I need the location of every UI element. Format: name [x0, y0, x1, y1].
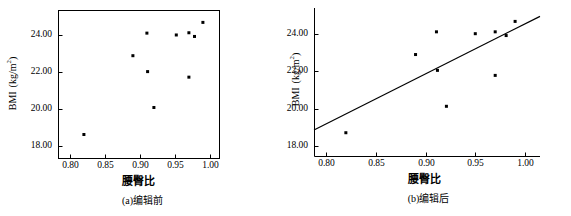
data-point: [414, 53, 417, 56]
chart-panel-b: BMI(kg/m2) 腰臀比 (b)编辑后 18.0020.0022.0024.…: [286, 0, 571, 216]
data-point: [505, 34, 508, 37]
data-point: [494, 30, 497, 33]
y-axis-unit-a-close: ): [7, 57, 18, 60]
y-axis-tick-label: 22.00: [264, 65, 308, 75]
y-axis-tick-label: 22.00: [8, 66, 52, 76]
panel-b-caption: (b)编辑后: [286, 190, 571, 205]
x-axis-tick-label: 0.90: [121, 160, 161, 170]
data-point: [201, 21, 204, 24]
data-point: [494, 74, 497, 77]
data-point: [146, 70, 149, 73]
x-axis-tick-label: 0.95: [156, 160, 196, 170]
x-axis-tick-label: 0.95: [456, 158, 496, 168]
data-point: [514, 20, 517, 23]
x-axis-tick-label: 0.85: [357, 158, 397, 168]
x-axis-title-a: 腰臀比: [58, 172, 218, 188]
y-axis-tick-label: 24.00: [8, 29, 52, 39]
y-axis-tick-label: 20.00: [8, 103, 52, 113]
data-point: [131, 54, 134, 57]
data-point: [187, 31, 190, 34]
y-axis-unit-a-exponent: 2: [5, 60, 12, 63]
x-axis-tick-label: 0.80: [307, 158, 347, 168]
data-point: [436, 69, 439, 72]
x-axis-tick-label: 0.80: [51, 160, 91, 170]
data-point: [474, 32, 477, 35]
x-axis-tick-label: 1.00: [191, 160, 231, 170]
data-point: [435, 30, 438, 33]
y-axis-unit-b-close: ): [290, 53, 301, 56]
x-axis-title-b: 腰臀比: [344, 170, 504, 186]
data-point: [82, 133, 85, 136]
x-axis-tick-label: 0.90: [407, 158, 447, 168]
data-point: [445, 105, 448, 108]
y-axis-tick-label: 20.00: [264, 103, 308, 113]
y-axis-tick-label: 18.00: [8, 140, 52, 150]
data-point: [145, 32, 148, 35]
y-axis-tick-label: 18.00: [264, 140, 308, 150]
x-axis-tick-label: 1.00: [506, 158, 546, 168]
figure-container: BMI(kg/m2) 腰臀比 (a)编辑前 18.0020.0022.0024.…: [0, 0, 571, 216]
y-axis-tick-label: 24.00: [264, 28, 308, 38]
data-point: [187, 76, 190, 79]
data-point: [175, 33, 178, 36]
data-point: [344, 131, 347, 134]
panel-a-caption: (a)编辑前: [0, 192, 285, 207]
y-axis-unit-b-exponent: 2: [288, 56, 295, 59]
chart-panel-a: BMI(kg/m2) 腰臀比 (a)编辑前 18.0020.0022.0024.…: [0, 0, 285, 216]
x-axis-tick-label: 0.85: [86, 160, 126, 170]
data-point: [152, 106, 155, 109]
data-point: [193, 35, 196, 38]
plot-frame: [59, 11, 220, 159]
trend-line: [314, 16, 540, 130]
